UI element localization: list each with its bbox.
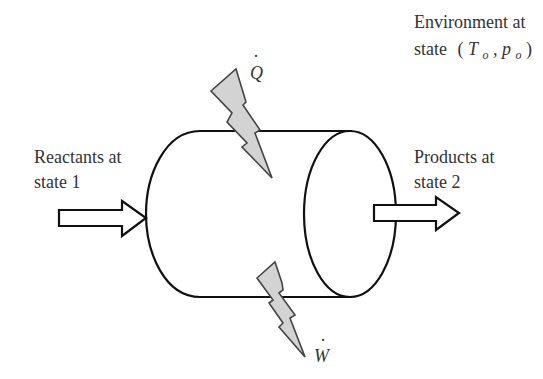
work-transfer-bolt-icon — [257, 262, 305, 357]
environment-close-paren: ) — [526, 39, 532, 60]
diagram-canvas: Environment at state ( T o , p o ) React… — [0, 0, 543, 379]
environment-temperature-symbol: T — [468, 39, 480, 59]
environment-open-paren: ( — [458, 39, 464, 60]
outlet-label-line2: state 2 — [414, 172, 461, 192]
environment-pressure-subscript: o — [516, 48, 522, 62]
work-rate-dot: · — [320, 330, 326, 350]
heat-rate-symbol: Q — [250, 63, 263, 83]
environment-state-word: state — [414, 39, 447, 59]
environment-comma: , — [493, 39, 498, 59]
environment-pressure-symbol: p — [500, 39, 511, 59]
inlet-label-line1: Reactants at — [34, 147, 121, 167]
outlet-label-line1: Products at — [414, 147, 495, 167]
inlet-label-line2: state 1 — [34, 172, 81, 192]
heat-transfer-bolt-icon — [211, 69, 272, 178]
inlet-arrow — [59, 201, 146, 236]
environment-temperature-subscript: o — [483, 48, 489, 62]
environment-label-line2: state ( T o , p o ) — [414, 39, 532, 63]
outlet-arrow — [374, 197, 459, 230]
heat-rate-dot: · — [253, 46, 259, 66]
cylinder-body-left — [146, 131, 200, 297]
environment-label-line1: Environment at — [414, 12, 525, 32]
